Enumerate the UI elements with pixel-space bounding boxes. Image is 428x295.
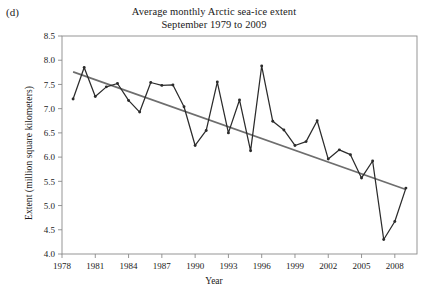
- x-tick-label: 1990: [186, 261, 205, 271]
- data-point: [227, 131, 230, 134]
- data-point: [171, 83, 174, 86]
- y-tick-label: 5.5: [44, 177, 56, 187]
- x-tick-label: 2002: [319, 261, 337, 271]
- data-point: [72, 98, 75, 101]
- data-point: [349, 153, 352, 156]
- data-point: [282, 129, 285, 132]
- data-point: [83, 66, 86, 69]
- data-point: [149, 81, 152, 84]
- x-tick-label: 1993: [219, 261, 238, 271]
- y-tick-label: 7.0: [44, 104, 56, 114]
- data-point: [105, 85, 108, 88]
- y-tick-label: 8.0: [44, 55, 56, 65]
- y-tick-label: 5.0: [44, 201, 56, 211]
- x-tick-label: 1999: [286, 261, 305, 271]
- x-tick-label: 1996: [253, 261, 272, 271]
- data-point: [249, 149, 252, 152]
- plot-frame: [62, 36, 417, 254]
- y-tick-label: 4.0: [44, 249, 56, 259]
- data-point: [404, 187, 407, 190]
- data-point: [205, 129, 208, 132]
- trend-line: [73, 72, 406, 190]
- plot-area: 4.04.55.05.56.06.57.07.58.08.5 197819811…: [0, 0, 428, 295]
- data-point: [371, 160, 374, 163]
- data-point: [305, 140, 308, 143]
- data-point: [160, 84, 163, 87]
- data-point: [327, 158, 330, 161]
- x-tick-label: 2005: [353, 261, 372, 271]
- data-point: [216, 81, 219, 84]
- series-polyline: [73, 66, 406, 239]
- x-axis-ticks: 1978198119841987199019931996199920022005…: [53, 254, 404, 271]
- data-series-line: [73, 66, 406, 239]
- data-point: [238, 98, 241, 101]
- data-point: [393, 220, 396, 223]
- data-point: [338, 148, 341, 151]
- data-point: [316, 119, 319, 122]
- data-point: [194, 144, 197, 147]
- x-tick-label: 1987: [153, 261, 172, 271]
- data-point: [294, 144, 297, 147]
- data-point: [116, 82, 119, 85]
- data-point: [94, 95, 97, 98]
- y-tick-label: 7.5: [44, 80, 56, 90]
- data-point: [360, 176, 363, 179]
- data-point: [127, 99, 130, 102]
- data-point: [183, 105, 186, 108]
- data-point: [382, 238, 385, 241]
- x-tick-label: 1978: [53, 261, 72, 271]
- trend-line-path: [73, 72, 406, 190]
- y-tick-label: 4.5: [44, 225, 56, 235]
- data-point: [271, 120, 274, 123]
- data-point: [138, 111, 141, 114]
- figure-panel: (d) Average monthly Arctic sea-ice exten…: [0, 0, 428, 295]
- y-tick-label: 8.5: [44, 31, 56, 41]
- x-tick-label: 1984: [120, 261, 139, 271]
- x-tick-label: 2008: [386, 261, 405, 271]
- x-tick-label: 1981: [86, 261, 104, 271]
- y-axis-ticks: 4.04.55.05.56.06.57.07.58.08.5: [44, 31, 62, 259]
- y-tick-label: 6.0: [44, 152, 56, 162]
- data-point: [260, 65, 263, 68]
- y-tick-label: 6.5: [44, 128, 56, 138]
